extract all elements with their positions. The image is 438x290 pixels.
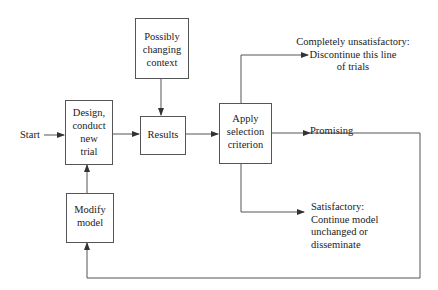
modify-model-label: Modify model bbox=[74, 203, 106, 229]
apply-criterion-box: Apply selection criterion bbox=[219, 103, 272, 164]
design-trial-label: Design, conduct new trial bbox=[72, 106, 105, 158]
satisfactory-outcome-label: Satisfactory: Continue model unchanged o… bbox=[311, 201, 378, 251]
design-trial-box: Design, conduct new trial bbox=[65, 100, 113, 165]
promising-outcome-label: Promising bbox=[310, 125, 353, 138]
context-label: Possibly changing context bbox=[143, 30, 182, 69]
results-label: Results bbox=[148, 128, 179, 141]
apply-criterion-label: Apply selection criterion bbox=[227, 112, 264, 151]
context-box: Possibly changing context bbox=[135, 18, 189, 79]
results-box: Results bbox=[140, 116, 186, 155]
arrow-apply-to-satisfactory bbox=[241, 163, 304, 212]
modify-model-box: Modify model bbox=[66, 193, 114, 243]
unsatisfactory-outcome-label: Completely unsatisfactory: Discontinue t… bbox=[290, 36, 416, 74]
start-label: Start bbox=[20, 129, 40, 142]
